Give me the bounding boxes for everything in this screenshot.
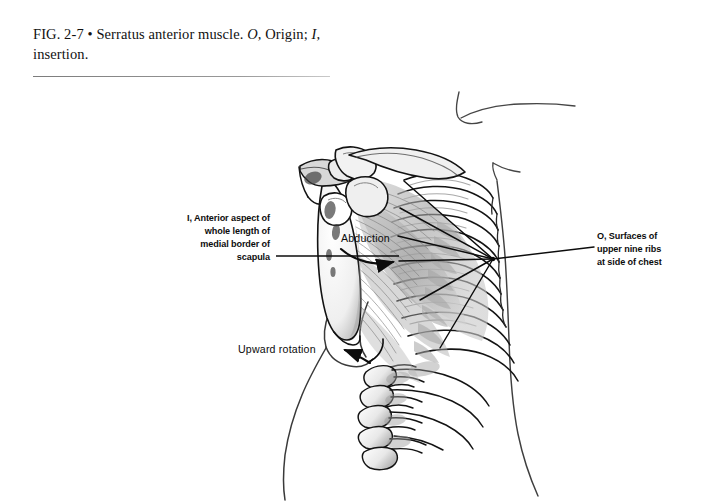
- humerus-head: [346, 177, 388, 217]
- label-origin: O, Surfaces of upper nine ribs at side o…: [597, 230, 699, 269]
- body-contour-outline: [456, 92, 575, 180]
- costal-cartilage: [492, 198, 506, 327]
- anatomical-illustration: [0, 0, 701, 501]
- right-torso-contour: [497, 181, 538, 496]
- label-abduction: Abduction: [341, 231, 390, 246]
- label-upward-rotation: Upward rotation: [238, 342, 316, 357]
- label-insertion: I, Anterior aspect of whole length of me…: [138, 212, 270, 264]
- figure-page: FIG. 2-7 • Serratus anterior muscle. O, …: [0, 0, 701, 501]
